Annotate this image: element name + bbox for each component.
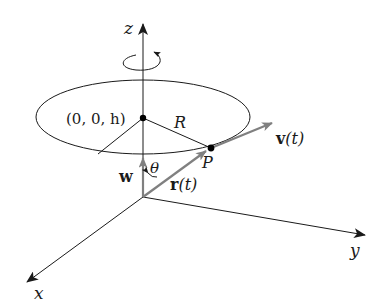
z-axis-label: z [123, 18, 134, 38]
point-P [208, 145, 215, 152]
angular-velocity-label: w [118, 167, 134, 186]
diagram-canvas: z x y (0, 0, h) R P v(t) r(t) w θ [0, 0, 382, 304]
velocity-arg: (t) [285, 129, 304, 148]
diagram-svg: z x y (0, 0, h) R P v(t) r(t) w θ [0, 0, 382, 304]
rotation-arrow-icon [123, 52, 160, 70]
velocity-label: v(t) [275, 129, 304, 148]
point-P-label: P [201, 153, 213, 172]
y-axis [143, 197, 365, 235]
theta-label: θ [150, 159, 159, 177]
radius-label: R [173, 113, 186, 132]
position-arg: (t) [178, 175, 197, 194]
x-axis [27, 197, 143, 282]
position-label: r(t) [170, 175, 197, 194]
center-point-label: (0, 0, h) [66, 110, 126, 128]
velocity-vector-v [211, 123, 272, 148]
x-axis-label: x [34, 283, 44, 303]
y-axis-label: y [349, 240, 360, 260]
center-point [140, 115, 146, 121]
